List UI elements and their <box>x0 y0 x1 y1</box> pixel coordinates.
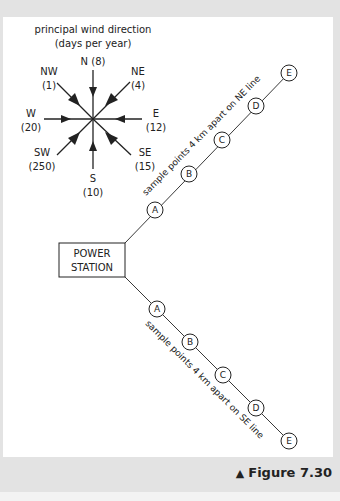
value-se: (15) <box>135 161 156 172</box>
label-s: S <box>90 173 96 184</box>
arrowhead-s-icon <box>89 141 97 151</box>
wind-rose-title: principal wind direction <box>35 24 152 35</box>
ne-point-e: E <box>281 65 297 81</box>
power-station: POWER STATION <box>59 243 125 277</box>
power-station-line2: STATION <box>71 262 113 273</box>
label-se: SE <box>139 147 152 158</box>
svg-text:D: D <box>253 101 260 111</box>
wind-rose-subtitle: (days per year) <box>55 38 132 49</box>
svg-text:E: E <box>286 436 292 446</box>
se-transect <box>125 277 289 441</box>
se-point-a: A <box>149 301 165 317</box>
ne-line-label: sample points 4 km apart on NE line <box>140 73 262 197</box>
svg-text:B: B <box>187 337 193 347</box>
arrowhead-ne-icon <box>105 93 118 106</box>
svg-text:C: C <box>220 370 226 380</box>
label-sw: SW <box>34 147 50 158</box>
value-s: (10) <box>83 187 104 198</box>
arrowhead-w-icon <box>61 115 71 123</box>
svg-text:D: D <box>253 403 260 413</box>
svg-text:C: C <box>219 135 225 145</box>
label-e: E <box>153 108 159 119</box>
value-ne: (4) <box>131 80 145 91</box>
label-nw: NW <box>40 66 57 77</box>
ne-point-c: C <box>214 132 230 148</box>
label-n: N (8) <box>81 56 106 67</box>
arrowhead-e-icon <box>115 115 125 123</box>
ne-point-d: D <box>248 98 264 114</box>
arrowhead-se-icon <box>105 132 118 145</box>
ne-point-a: A <box>147 202 163 218</box>
svg-text:A: A <box>154 304 161 314</box>
svg-text:B: B <box>186 169 192 179</box>
label-w: W <box>26 108 36 119</box>
ne-point-b: B <box>181 166 197 182</box>
value-e: (12) <box>146 122 167 133</box>
wind-rose <box>44 70 142 169</box>
ne-transect <box>125 73 289 243</box>
power-station-line1: POWER <box>73 248 110 259</box>
se-point-b: B <box>182 334 198 350</box>
arrowhead-n-icon <box>89 87 97 97</box>
triangle-up-icon: ▲ <box>236 467 244 480</box>
figure-caption-text: Figure 7.30 <box>248 465 332 480</box>
label-ne: NE <box>131 66 145 77</box>
value-sw: (250) <box>29 161 56 172</box>
se-point-e: E <box>281 433 297 449</box>
value-w: (20) <box>21 122 42 133</box>
se-line-label: sample points 4 km apart on SE line <box>144 318 267 441</box>
figure-caption: ▲Figure 7.30 <box>236 465 332 480</box>
se-point-c: C <box>215 367 231 383</box>
wind-sampling-diagram: principal wind direction (days per year)… <box>0 0 340 501</box>
se-point-d: D <box>248 400 264 416</box>
svg-text:E: E <box>286 68 292 78</box>
value-nw: (1) <box>42 80 56 91</box>
svg-text:A: A <box>152 205 159 215</box>
